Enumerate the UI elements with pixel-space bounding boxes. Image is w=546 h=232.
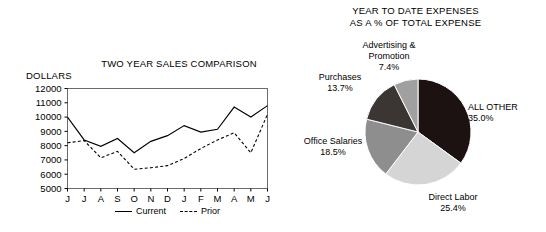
legend-item-current: Current [115, 206, 166, 216]
y-tick-label: 8000 [40, 140, 61, 151]
y-tick-label: 11000 [36, 97, 62, 108]
series-line-current [68, 106, 268, 153]
y-tick-label: 7000 [40, 154, 61, 165]
series-line-prior [68, 114, 268, 169]
x-tick-label: M [247, 193, 255, 204]
pie-chart-panel: YEAR TO DATE EXPENSES AS A % OF TOTAL EX… [285, 0, 546, 232]
x-tick-label: J [265, 193, 270, 204]
x-tick-label: O [130, 193, 137, 204]
pie-label-all-other-name: ALL OTHER [468, 102, 518, 112]
pie-label-advertising-name-line1: Advertising & [362, 40, 415, 50]
plot-frame [68, 89, 268, 189]
pie-label-all-other-pct: 35.0% [468, 113, 544, 124]
legend-label-current: Current [136, 206, 166, 216]
y-tick-label: 5000 [40, 183, 61, 194]
pie-label-advertising-name-line2: Promotion [368, 51, 409, 61]
legend-label-prior: Prior [201, 206, 220, 216]
x-tick-label: J [65, 193, 70, 204]
line-chart-panel: DOLLARS TWO YEAR SALES COMPARISON 120001… [0, 0, 285, 232]
pie-label-office-salaries: Office Salaries 18.5% [285, 136, 381, 158]
dashed-line-icon [180, 211, 197, 212]
pie-label-purchases-pct: 13.7% [301, 83, 379, 94]
x-tick-label: A [231, 193, 238, 204]
pie-label-advertising: Advertising & Promotion 7.4% [343, 40, 435, 73]
pie-label-direct-labor: Direct Labor 25.4% [407, 192, 499, 214]
pie-label-direct-labor-pct: 25.4% [407, 203, 499, 214]
x-tick-label: M [214, 193, 222, 204]
solid-line-icon [115, 211, 132, 212]
x-tick-label: F [198, 193, 204, 204]
y-tick-label: 9000 [40, 126, 61, 137]
line-chart-legend: Current Prior [67, 206, 268, 216]
x-axis-tick-labels: JJASONDJFMAMJ [65, 193, 270, 204]
y-axis-tick-labels: 12000110001000090008000700060005000 [35, 83, 61, 194]
y-tick-label: 10000 [35, 111, 61, 122]
pie-label-purchases-name: Purchases [319, 72, 362, 82]
pie-label-direct-labor-name: Direct Labor [428, 192, 477, 202]
x-tick-label: D [164, 193, 171, 204]
x-tick-label: J [82, 193, 87, 204]
pie-label-purchases: Purchases 13.7% [301, 72, 379, 94]
pie-label-office-salaries-name: Office Salaries [304, 136, 362, 146]
y-tick-label: 12000 [35, 83, 61, 94]
pie-label-all-other: ALL OTHER 35.0% [468, 102, 544, 124]
line-chart-plot: 12000110001000090008000700060005000 JJAS… [0, 0, 285, 232]
y-tick-label: 6000 [40, 169, 61, 180]
x-tick-label: A [98, 193, 105, 204]
x-tick-label: J [182, 193, 187, 204]
x-tick-label: N [147, 193, 154, 204]
x-tick-label: S [114, 193, 120, 204]
pie-label-office-salaries-pct: 18.5% [285, 147, 381, 158]
report-figure: DOLLARS TWO YEAR SALES COMPARISON 120001… [0, 0, 546, 232]
legend-item-prior: Prior [180, 206, 220, 216]
